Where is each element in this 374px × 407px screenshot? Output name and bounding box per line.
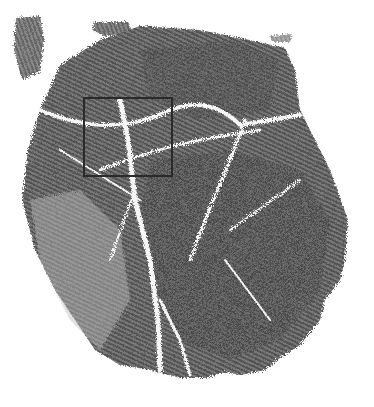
region-of-interest-box bbox=[83, 97, 173, 177]
palmprint-image bbox=[0, 0, 374, 407]
finger-fragment-left bbox=[14, 16, 44, 80]
